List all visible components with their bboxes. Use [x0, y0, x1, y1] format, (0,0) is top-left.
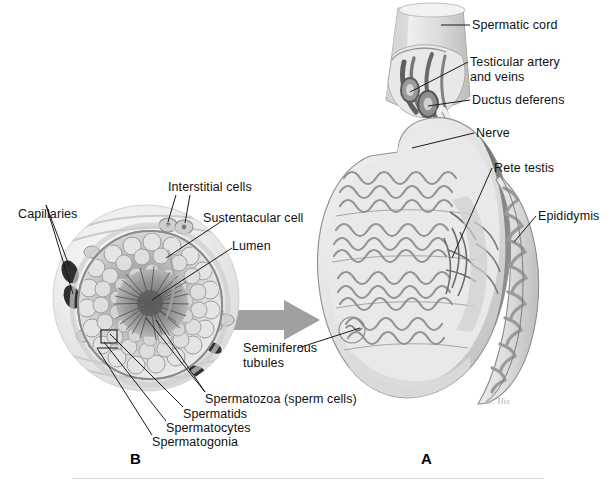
label-spermatic-cord: Spermatic cord — [472, 18, 557, 32]
label-interstitial-cells: Interstitial cells — [168, 180, 252, 194]
figure-page: Spermatic cord Testicular artery and vei… — [0, 0, 613, 488]
label-testicular-artery-and-veins-line1: Testicular artery — [470, 55, 560, 69]
label-seminiferous-tubules-line2: tubules — [243, 356, 284, 370]
label-nerve: Nerve — [476, 126, 510, 140]
artist-signature: G. Hix — [486, 396, 510, 406]
label-epididymis: Epididymis — [538, 209, 599, 223]
spermatic-cord-structure — [386, 3, 470, 120]
panel-letter-a: A — [421, 450, 432, 467]
label-spermatozoa: Spermatozoa (sperm cells) — [205, 392, 357, 406]
figure-baseline-rule — [72, 478, 544, 479]
label-spermatocytes: Spermatocytes — [166, 421, 251, 435]
label-rete-testis: Rete testis — [494, 161, 554, 175]
label-capillaries: Capillaries — [18, 207, 77, 221]
label-spermatogonia: Spermatogonia — [152, 435, 238, 449]
label-sustentacular-cell: Sustentacular cell — [203, 211, 303, 225]
label-spermatids: Spermatids — [183, 407, 247, 421]
label-testicular-artery-and-veins-line2: and veins — [470, 70, 524, 84]
panel-letter-b: B — [130, 450, 141, 467]
magnification-arrow — [228, 300, 320, 340]
label-seminiferous-tubules-line1: Seminiferous — [243, 341, 317, 355]
label-lumen: Lumen — [232, 239, 271, 253]
label-ductus-deferens: Ductus deferens — [472, 93, 565, 107]
